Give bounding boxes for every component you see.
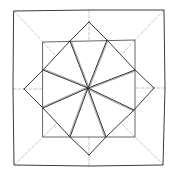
origami-star-diagram — [0, 0, 174, 178]
